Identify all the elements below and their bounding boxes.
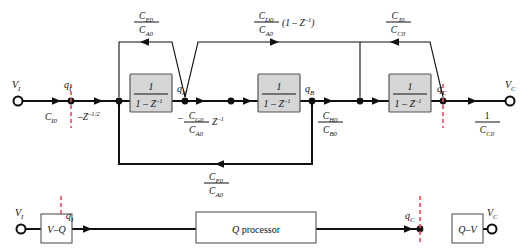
feedback-E-arrowhead — [140, 38, 149, 46]
gain-label-C-I0: CI0 — [45, 112, 58, 124]
signal-flow-diagram: 1 1 – Z–1 1 1 – Z–1 1 1 – Z–1 VI VC qI q… — [0, 0, 525, 252]
feedback-E-numerator: CE0 — [139, 11, 153, 23]
g-gain-numerator: CG0 — [189, 111, 204, 123]
feedforward-D-arrowhead — [270, 38, 279, 46]
input-terminal-top[interactable] — [14, 97, 23, 106]
label-node-qI: qI — [64, 79, 72, 92]
bottom-block-diagram: V–Q Q processor Q–V VI qI qC VC — [15, 196, 498, 245]
node-sum-2[interactable] — [228, 98, 235, 105]
feedback-F-denominator: CA0 — [209, 186, 223, 198]
label-input-VI-bottom: VI — [15, 207, 24, 220]
integrator-3-numerator: 1 — [408, 81, 413, 92]
block-q-to-v-label: Q–V — [458, 224, 478, 235]
output-gain-denominator: CC0 — [480, 125, 495, 137]
feedback-J-arrowhead — [390, 38, 399, 46]
node-sum-3[interactable] — [357, 98, 364, 105]
feedforward-D-denominator: CA0 — [259, 25, 273, 37]
integrator-2-numerator: 1 — [277, 81, 282, 92]
g-gain-denominator: CA0 — [189, 125, 203, 137]
label-node-qI-bottom: qI — [66, 210, 74, 223]
label-node-qC-bottom: qC — [405, 210, 415, 223]
label-input-VI: VI — [12, 79, 21, 92]
gain-label-neg-half-delay: –Z–1/2 — [77, 110, 100, 122]
feedforward-D-numerator: CD0 — [259, 11, 274, 23]
feedback-F-arrowhead — [215, 160, 224, 168]
svg-text:–: – — [177, 113, 183, 123]
block-q-processor-label: Q processor — [232, 224, 281, 235]
integrator-1[interactable]: 1 1 – Z–1 — [130, 74, 172, 112]
block-v-to-q-label: V–Q — [47, 224, 66, 235]
integrator-2[interactable]: 1 1 – Z–1 — [258, 74, 300, 112]
label-node-qB: qB — [305, 83, 314, 96]
feedback-F-numerator: CF0 — [209, 172, 223, 184]
h-gain-numerator: CH0 — [323, 111, 338, 123]
h-gain-denominator: CB0 — [323, 125, 337, 137]
integrator-3[interactable]: 1 1 – Z–1 — [389, 74, 431, 112]
gain-label-C-G0-over-C-A0: – CG0 CA0 Z–1 — [177, 111, 224, 137]
feedforward-D-suffix: (1 – Z–1) — [282, 16, 314, 29]
integrator-1-numerator: 1 — [149, 81, 154, 92]
output-terminal-bottom[interactable] — [488, 225, 497, 234]
g-gain-suffix: Z–1 — [212, 115, 224, 127]
label-output-VC-bottom: VC — [487, 207, 498, 220]
output-gain-numerator: 1 — [485, 111, 490, 121]
feedback-J-denominator: CC0 — [391, 25, 406, 37]
block-q-to-v[interactable]: Q–V — [452, 214, 483, 243]
feedback-J-numerator: CJ0 — [392, 11, 405, 23]
node-qA[interactable] — [182, 98, 189, 105]
input-terminal-bottom[interactable] — [17, 225, 26, 234]
label-output-VC: VC — [505, 79, 516, 92]
block-q-processor[interactable]: Q processor — [196, 212, 316, 243]
gain-label-C-H0-over-C-B0: CH0 CB0 — [318, 111, 343, 137]
output-terminal-top[interactable] — [506, 97, 515, 106]
feedback-path-F: CF0 CA0 — [119, 101, 312, 198]
feedback-E-denominator: CA0 — [139, 25, 153, 37]
gain-label-one-over-C-C0: 1 CC0 — [475, 111, 500, 137]
